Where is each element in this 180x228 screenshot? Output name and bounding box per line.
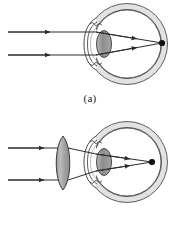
crystalline-lens-b (97, 149, 112, 176)
cornea-outer-a (84, 18, 96, 70)
cornea-outer-b (84, 136, 96, 188)
converging-lens-b (56, 136, 70, 190)
ray-diagram-b (0, 114, 180, 228)
panel-a: (a) (0, 0, 180, 114)
panel-b: (b) (0, 114, 180, 228)
focal-point-b (149, 159, 155, 165)
figure-canvas: (a) (0, 0, 180, 228)
panel-caption-a: (a) (0, 92, 180, 104)
focal-point-a (159, 40, 165, 46)
